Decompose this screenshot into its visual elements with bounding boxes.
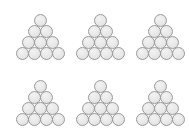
circle xyxy=(172,113,185,126)
circle xyxy=(16,113,29,126)
circle xyxy=(28,47,41,60)
circle xyxy=(172,47,185,60)
circle xyxy=(112,113,125,126)
circle xyxy=(16,47,29,60)
circle xyxy=(160,47,173,60)
circle xyxy=(148,113,161,126)
circle xyxy=(136,113,149,126)
circle xyxy=(40,47,53,60)
triangle-group xyxy=(70,80,130,136)
circle-row xyxy=(70,113,130,126)
triangle-group xyxy=(10,80,70,136)
circle-row xyxy=(130,113,189,126)
circle xyxy=(100,47,113,60)
circle xyxy=(52,113,65,126)
triangle-group xyxy=(70,14,130,76)
circle xyxy=(136,47,149,60)
triangle-group xyxy=(10,14,70,76)
circle-row xyxy=(130,47,189,60)
circle xyxy=(100,113,113,126)
triangle-group xyxy=(130,14,189,76)
circle xyxy=(112,47,125,60)
circle-row xyxy=(10,47,70,60)
circle xyxy=(88,113,101,126)
circle xyxy=(160,113,173,126)
figure-canvas xyxy=(0,0,189,136)
circle xyxy=(88,47,101,60)
circle-row xyxy=(10,113,70,126)
circle xyxy=(40,113,53,126)
circle-row xyxy=(70,47,130,60)
circle xyxy=(52,47,65,60)
triangle-group xyxy=(130,80,189,136)
circle xyxy=(76,47,89,60)
circle xyxy=(76,113,89,126)
circle xyxy=(148,47,161,60)
triangle-group-grid xyxy=(0,0,189,136)
circle xyxy=(28,113,41,126)
